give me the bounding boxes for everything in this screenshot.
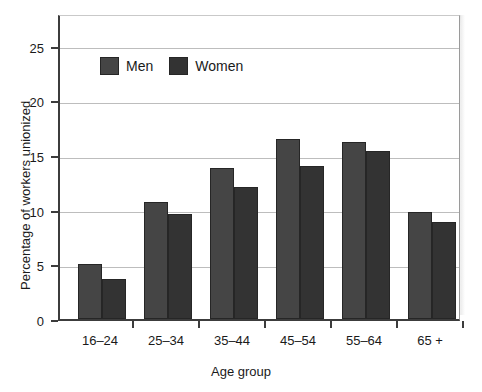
legend-label-women: Women (195, 59, 243, 73)
x-tick-label: 65 + (390, 334, 470, 348)
y-tick-mark (51, 320, 58, 322)
y-tick-mark (51, 265, 58, 267)
bar-men-1 (144, 202, 168, 319)
x-tick-mark (396, 321, 398, 328)
x-tick-mark (462, 321, 464, 328)
y-tick-label: 15 (10, 151, 44, 164)
men-swatch-icon (100, 57, 119, 75)
y-tick-mark (51, 101, 58, 103)
x-tick-mark (198, 321, 200, 328)
gridline (60, 158, 459, 159)
legend-label-men: Men (126, 59, 153, 73)
y-tick-label: 10 (10, 206, 44, 219)
y-tick-mark (51, 156, 58, 158)
gridline (60, 103, 459, 104)
bar-women-4 (366, 151, 390, 319)
legend-entry-men: Men (100, 57, 153, 75)
bar-men-4 (342, 142, 366, 319)
legend-entry-women: Women (169, 57, 243, 75)
bar-men-2 (210, 168, 234, 319)
bar-men-0 (78, 264, 102, 319)
y-tick-label: 25 (10, 42, 44, 55)
y-tick-label: 20 (10, 96, 44, 109)
x-tick-mark (264, 321, 266, 328)
gridline (60, 212, 459, 213)
bar-women-3 (300, 166, 324, 319)
bar-women-1 (168, 214, 192, 319)
x-tick-mark (330, 321, 332, 328)
bar-women-0 (102, 279, 126, 319)
gridline (60, 48, 459, 49)
y-tick-mark (51, 211, 58, 213)
x-tick-mark (132, 321, 134, 328)
legend: Men Women (100, 57, 243, 75)
women-swatch-icon (169, 57, 188, 75)
x-axis-title: Age group (0, 364, 482, 379)
y-tick-label: 0 (10, 315, 44, 328)
bar-men-5 (408, 212, 432, 319)
bar-women-2 (234, 187, 258, 319)
bar-men-3 (276, 139, 300, 319)
gridline (60, 267, 459, 268)
bar-women-5 (432, 222, 456, 319)
y-tick-mark (51, 47, 58, 49)
y-tick-label: 5 (10, 260, 44, 273)
bar-chart-figure: Percentage of workers unionized 05101520… (0, 0, 482, 392)
